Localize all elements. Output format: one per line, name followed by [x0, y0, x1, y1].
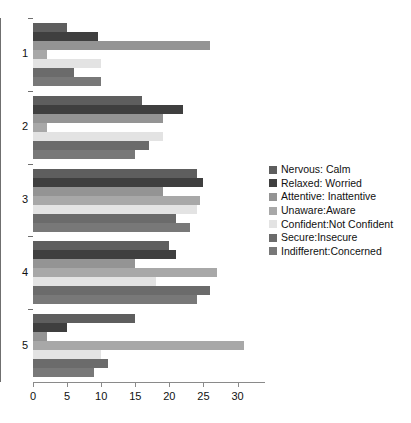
legend-label: Unaware:Aware — [281, 205, 356, 216]
bar-row — [33, 150, 258, 159]
bar-group — [33, 23, 258, 86]
bar — [33, 250, 176, 259]
bar — [33, 259, 135, 268]
bar-row — [33, 250, 258, 259]
plot-area — [33, 18, 258, 382]
legend-item: Nervous: Calm — [269, 163, 409, 177]
bar — [33, 68, 74, 77]
bar-row — [33, 277, 258, 286]
y-tick-label: 3 — [14, 194, 28, 205]
legend-swatch-icon — [269, 207, 277, 215]
legend-label: Secure:Insecure — [281, 232, 357, 243]
bar — [33, 132, 163, 141]
bar — [33, 77, 101, 86]
bar-row — [33, 323, 258, 332]
x-tick-label: 15 — [123, 390, 147, 402]
bar-row — [33, 368, 258, 377]
legend-label: Attentive: Inattentive — [281, 191, 376, 202]
bar — [33, 332, 47, 341]
bar-row — [33, 241, 258, 250]
bar-row — [33, 341, 258, 350]
bar — [33, 214, 176, 223]
bar-row — [33, 295, 258, 304]
y-axis-line — [0, 18, 1, 382]
y-tick-label: 5 — [14, 340, 28, 351]
bar — [33, 114, 163, 123]
legend-label: Nervous: Calm — [281, 164, 350, 175]
legend-label: Indifferent:Concerned — [281, 246, 382, 257]
bar-row — [33, 332, 258, 341]
bar — [33, 41, 210, 50]
legend-swatch-icon — [269, 179, 277, 187]
bar-row — [33, 77, 258, 86]
legend-swatch-icon — [269, 166, 277, 174]
bar-row — [33, 23, 258, 32]
bar — [33, 96, 142, 105]
legend-label: Confident:Not Confident — [281, 219, 393, 230]
bar — [33, 59, 101, 68]
y-tick-label: 2 — [14, 121, 28, 132]
bar-group — [33, 96, 258, 159]
bar-row — [33, 268, 258, 277]
bar-row — [33, 178, 258, 187]
bar-group — [33, 169, 258, 232]
bar-row — [33, 169, 258, 178]
bar-row — [33, 32, 258, 41]
bar — [33, 123, 47, 132]
bar — [33, 241, 169, 250]
bar — [33, 105, 183, 114]
x-tick-label: 30 — [226, 390, 250, 402]
bar-row — [33, 196, 258, 205]
bar — [33, 350, 101, 359]
bar-row — [33, 205, 258, 214]
bar-row — [33, 141, 258, 150]
bar — [33, 286, 210, 295]
legend-swatch-icon — [269, 220, 277, 228]
bar — [33, 205, 197, 214]
bar — [33, 187, 163, 196]
bar — [33, 341, 244, 350]
bar-row — [33, 105, 258, 114]
bar-row — [33, 114, 258, 123]
x-tick-mark — [169, 383, 170, 387]
bar — [33, 150, 135, 159]
bar — [33, 268, 217, 277]
bar — [33, 277, 156, 286]
bar — [33, 178, 203, 187]
bar-group — [33, 241, 258, 304]
bar-row — [33, 187, 258, 196]
legend-item: Indifferent:Concerned — [269, 245, 409, 259]
bar-row — [33, 96, 258, 105]
legend-swatch-icon — [269, 193, 277, 201]
legend-item: Relaxed: Worried — [269, 177, 409, 191]
bar-row — [33, 286, 258, 295]
legend-item: Unaware:Aware — [269, 204, 409, 218]
bar-row — [33, 132, 258, 141]
x-tick-mark — [203, 383, 204, 387]
bar-row — [33, 50, 258, 59]
legend-item: Attentive: Inattentive — [269, 190, 409, 204]
bar — [33, 32, 98, 41]
legend-swatch-icon — [269, 234, 277, 242]
bar — [33, 196, 200, 205]
legend-item: Secure:Insecure — [269, 231, 409, 245]
bar-group — [33, 314, 258, 377]
bar-chart: 12345 051015202530 Nervous: CalmRelaxed:… — [0, 0, 411, 423]
bar — [33, 50, 47, 59]
bar — [33, 169, 197, 178]
bar-row — [33, 123, 258, 132]
x-tick-label: 25 — [191, 390, 215, 402]
bar-row — [33, 259, 258, 268]
x-tick-label: 20 — [157, 390, 181, 402]
bar — [33, 314, 135, 323]
x-tick-mark — [135, 383, 136, 387]
bar-row — [33, 350, 258, 359]
bar-row — [33, 41, 258, 50]
bar-row — [33, 223, 258, 232]
bar-row — [33, 359, 258, 368]
bar-row — [33, 314, 258, 323]
bar — [33, 223, 190, 232]
x-tick-mark — [101, 383, 102, 387]
x-tick-mark — [238, 383, 239, 387]
x-tick-mark — [67, 383, 68, 387]
